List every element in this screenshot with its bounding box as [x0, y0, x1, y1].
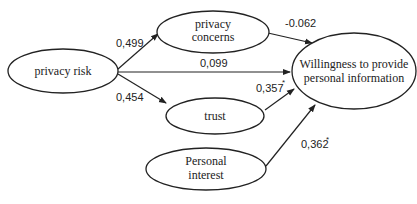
- coef-risk-willingness: 0,099: [200, 57, 228, 69]
- significance-marker: *: [282, 78, 285, 87]
- coef-concerns-willingness: -0.062: [285, 17, 316, 29]
- node-privacy-concerns: privacy concerns: [157, 11, 269, 53]
- significance-marker: *: [326, 135, 329, 144]
- node-personal-interest: Personal interest: [146, 148, 266, 190]
- node-privacy-risk: privacy risk: [8, 49, 118, 93]
- node-label: Willingness to provide: [300, 57, 409, 71]
- node-trust: trust: [166, 98, 264, 134]
- edge-concerns-willingness: [268, 33, 312, 43]
- node-willingness: Willingness to provide personal informat…: [292, 33, 416, 109]
- path-diagram: privacy risk privacy concerns trust Pers…: [0, 0, 417, 204]
- node-label: personal information: [304, 71, 404, 85]
- coef-trust-willingness: 0,357: [256, 82, 284, 94]
- node-label: interest: [188, 168, 224, 182]
- node-label: privacy: [195, 17, 231, 31]
- coef-interest-willingness: 0,362: [301, 138, 329, 150]
- coef-risk-trust: 0,454: [116, 91, 144, 103]
- node-label: Personal: [185, 154, 227, 168]
- node-label: privacy risk: [35, 64, 92, 78]
- edge-interest-willingness: [266, 105, 315, 166]
- coef-risk-concerns: 0,499: [116, 37, 144, 49]
- node-label: trust: [204, 109, 226, 123]
- node-label: concerns: [192, 30, 235, 44]
